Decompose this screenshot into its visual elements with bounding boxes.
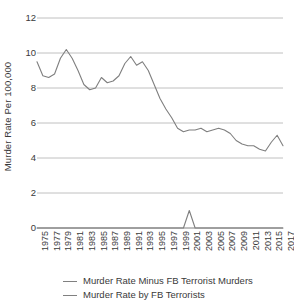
plot-svg	[37, 18, 283, 228]
x-axis-tick-labels: 1975197719791981198319851987198919911993…	[37, 231, 283, 271]
x-tick-label: 2015	[275, 231, 284, 251]
y-tick-label: 12	[14, 13, 36, 23]
series-line-1	[37, 50, 283, 152]
series-line-2	[37, 211, 283, 229]
x-tick-label: 2013	[264, 231, 273, 251]
x-tick-label: 1987	[111, 231, 120, 251]
x-tick-label: 1985	[100, 231, 109, 251]
plot-area	[37, 18, 283, 228]
x-tick-label: 1993	[146, 231, 155, 251]
x-tick-label: 1997	[170, 231, 179, 251]
legend-label: Murder Rate Minus FB Terrorist Murders	[83, 276, 253, 286]
x-tick-label: 2001	[193, 231, 202, 251]
chart-legend: Murder Rate Minus FB Terrorist Murders M…	[0, 274, 294, 302]
x-tick-label: 1979	[64, 231, 73, 251]
x-tick-label: 1983	[88, 231, 97, 251]
x-tick-label: 2011	[252, 231, 261, 250]
series-layer	[37, 50, 283, 229]
x-tick-label: 2003	[205, 231, 214, 251]
y-tick-label: 6	[14, 118, 36, 128]
y-tick-label: 0	[14, 223, 36, 233]
y-tick-label: 8	[14, 83, 36, 93]
x-tick-label: 2009	[240, 231, 249, 251]
x-tick-label: 1981	[76, 231, 85, 251]
x-tick-label: 1995	[158, 231, 167, 251]
legend-line-icon	[63, 281, 77, 282]
x-tick-label: 1991	[135, 231, 144, 251]
legend-label: Murder Rate by FB Terrorists	[83, 290, 205, 300]
x-tick-label: 2017	[287, 231, 294, 251]
line-chart: Murder Rate Per 100,000 024681012 197519…	[0, 0, 294, 306]
x-tick-label: 2005	[217, 231, 226, 251]
y-tick-label: 2	[14, 188, 36, 198]
legend-item-series-1[interactable]: Murder Rate Minus FB Terrorist Murders	[0, 274, 294, 288]
x-tick-label: 1975	[41, 231, 50, 251]
x-tick-label: 1999	[182, 231, 191, 251]
y-tick-label: 4	[14, 153, 36, 163]
y-tick-label: 10	[14, 48, 36, 58]
y-axis-tick-labels: 024681012	[14, 0, 36, 246]
gridlines	[37, 18, 283, 228]
legend-line-icon	[63, 295, 77, 296]
x-tick-label: 1989	[123, 231, 132, 251]
x-tick-label: 1977	[53, 231, 62, 251]
x-tick-label: 2007	[228, 231, 237, 251]
legend-item-series-2[interactable]: Murder Rate by FB Terrorists	[0, 288, 294, 302]
y-axis-title-label: Murder Rate Per 100,000	[3, 61, 14, 171]
